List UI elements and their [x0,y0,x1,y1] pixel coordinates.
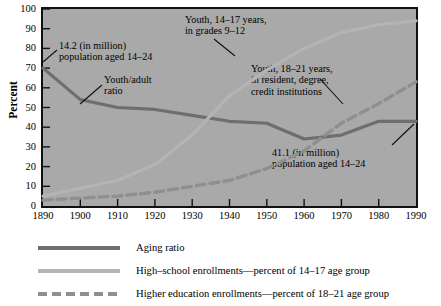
legend-label: Higher education enrollments—percent of … [136,284,389,304]
series-line [43,68,416,139]
chart-figure: Percent 0102030405060708090100 189019001… [0,0,441,306]
legend-swatch [38,269,120,273]
legend-item: Aging ratio [0,238,441,261]
chart-legend: Aging ratioHigh–school enrollments—perce… [0,238,441,306]
annotation-leader-line [214,39,235,56]
legend-item: High–school enrollments—percent of 14–17… [0,261,441,284]
annotation-leader-line [43,50,57,62]
series-line [43,82,416,200]
legend-swatch [38,246,120,250]
legend-item: Higher education enrollments—percent of … [0,284,441,306]
legend-label: Aging ratio [136,238,185,258]
annotation-leader-line [320,79,343,104]
annotation-leader-line [392,124,414,145]
series-line [43,21,416,196]
legend-label: High–school enrollments—percent of 14–17… [136,261,370,281]
legend-swatch [38,292,120,296]
